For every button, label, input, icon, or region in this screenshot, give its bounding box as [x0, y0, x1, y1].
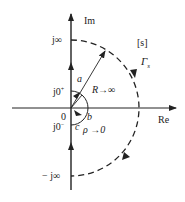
- arc-arrow-icon: [122, 152, 130, 160]
- point-c-label: c: [75, 121, 80, 132]
- small-radius-annotation: ρ →0: [82, 124, 105, 135]
- point-a-label: a: [77, 73, 82, 84]
- contour-label: Γs: [140, 55, 150, 70]
- nyquist-contour-diagram: Im Re j∞ − j∞ [s] Γs j0+ j0− 0 a b c R→∞…: [0, 0, 185, 202]
- tick-j0-minus: j0−: [52, 121, 65, 132]
- imag-axis-label: Im: [84, 15, 95, 26]
- up-arrow-icon: [68, 62, 74, 70]
- big-radius-annotation: R→∞: [91, 84, 115, 95]
- plane-label: [s]: [137, 37, 148, 48]
- tick-neg-j-infinity: − j∞: [42, 170, 60, 181]
- up-arrow-icon: [68, 142, 74, 150]
- tick-j0-plus: j0+: [52, 86, 65, 97]
- real-axis-label: Re: [158, 114, 170, 125]
- origin-label: 0: [61, 111, 66, 122]
- small-arrow-icon: [74, 110, 82, 116]
- point-b-label: b: [87, 111, 92, 122]
- tick-j-infinity: j∞: [51, 34, 62, 45]
